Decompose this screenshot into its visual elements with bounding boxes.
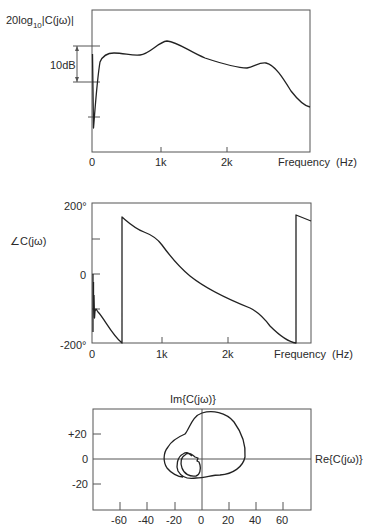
nyquist-ytick-label: 0: [82, 453, 88, 465]
nyquist-xtick-label: -20: [166, 514, 182, 526]
magnitude-xtick-label: 0: [89, 156, 95, 168]
magnitude-xtick-label: 1k: [155, 156, 167, 168]
scale-bar-label: 10dB: [50, 59, 76, 71]
nyquist-plot: Im{C(jω)} Re{C(jω)} +20 0 -20 -60 -40 -2…: [68, 393, 363, 526]
phase-xtick-label: 0: [89, 348, 95, 360]
phase-plot: ∠C(jω) 200° 0 -200° 0 1k 2k Frequency (H…: [10, 200, 353, 360]
magnitude-curve: [93, 41, 311, 128]
phase-xtick-label: 2k: [222, 348, 234, 360]
magnitude-frame: [92, 10, 310, 152]
phase-xlabel: Frequency (Hz): [274, 348, 353, 360]
nyquist-xtick-label: 60: [276, 514, 288, 526]
nyquist-xtick-label: -40: [138, 514, 154, 526]
phase-frame: [92, 203, 311, 343]
magnitude-ylabel: 20log10|C(jω)|: [6, 14, 74, 30]
phase-ylabel: ∠C(jω): [10, 235, 46, 247]
phase-curve: [93, 215, 311, 343]
magnitude-plot: 20log10|C(jω)| 10dB 0 1k 2k Frequency (H…: [6, 10, 357, 168]
magnitude-xtick-label: 2k: [221, 156, 233, 168]
phase-xtick-label: 1k: [156, 348, 168, 360]
nyquist-xtick-label: 0: [198, 514, 204, 526]
nyquist-xtick-label: 40: [249, 514, 261, 526]
nyquist-re-label: Re{C(jω)}: [315, 453, 363, 465]
nyquist-ytick-label: -20: [72, 478, 88, 490]
nyquist-ytick-label: +20: [68, 428, 87, 440]
figure: 20log10|C(jω)| 10dB 0 1k 2k Frequency (H…: [0, 0, 371, 532]
phase-ytick-label: 0: [80, 269, 86, 281]
phase-ytick-label: 200°: [64, 200, 87, 212]
phase-ytick-label: -200°: [60, 339, 86, 351]
magnitude-xlabel: Frequency (Hz): [278, 156, 357, 168]
nyquist-im-label: Im{C(jω)}: [170, 393, 216, 405]
nyquist-xtick-label: -60: [111, 514, 127, 526]
nyquist-curve: [164, 412, 245, 479]
nyquist-xtick-label: 20: [222, 514, 234, 526]
